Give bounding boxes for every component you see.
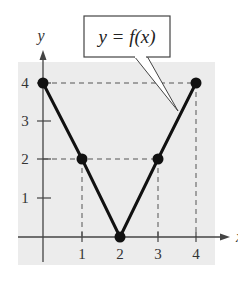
x-axis-arrow-icon	[220, 234, 230, 241]
y-tick-label: 2	[21, 151, 29, 167]
y-axis-label: y	[35, 27, 45, 45]
y-tick-label: 3	[21, 113, 29, 129]
data-point	[191, 78, 202, 89]
x-tick-label: 4	[192, 246, 200, 262]
data-point	[115, 232, 126, 243]
data-point	[38, 78, 49, 89]
y-tick-label: 1	[21, 190, 29, 206]
y-axis-arrow-icon	[40, 50, 47, 60]
x-tick-label: 2	[116, 246, 124, 262]
callout-label: y = f(x)	[96, 26, 155, 48]
x-tick-label: 1	[78, 246, 86, 262]
data-point	[77, 154, 88, 165]
x-axis-label: x	[235, 228, 238, 245]
graph: 1 2 3 4 1 2 3 4 y x y = f(x)	[0, 0, 238, 283]
x-tick-label: 3	[154, 246, 162, 262]
data-point	[153, 154, 164, 165]
y-tick-label: 4	[21, 75, 29, 91]
